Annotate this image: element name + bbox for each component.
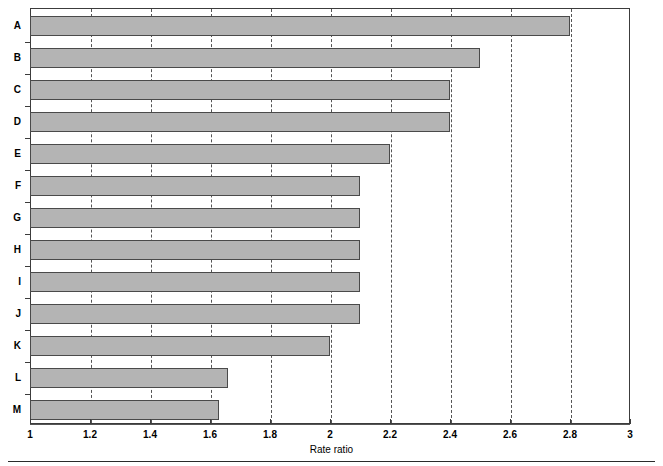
x-tick-label-2: 2 [310, 429, 350, 440]
bar-A [30, 16, 570, 36]
x-tick-label-1.6: 1.6 [190, 429, 230, 440]
bar-D [30, 112, 450, 132]
x-tick-label-2.6: 2.6 [490, 429, 530, 440]
y-tick-label-G: G [1, 213, 21, 223]
x-tick-label-1.4: 1.4 [130, 429, 170, 440]
x-tick-2.6 [510, 419, 511, 424]
bar-I [30, 272, 360, 292]
y-tick-label-M: M [1, 405, 21, 415]
x-tick-1.2 [90, 419, 91, 424]
bar-F [30, 176, 360, 196]
y-tick-G [25, 202, 30, 203]
footer-divider [8, 461, 655, 462]
bar-G [30, 208, 360, 228]
y-tick-label-H: H [1, 245, 21, 255]
bar-H [30, 240, 360, 260]
bar-L [30, 368, 228, 388]
x-tick-label-3: 3 [610, 429, 650, 440]
y-tick-K [25, 330, 30, 331]
y-tick-label-B: B [1, 53, 21, 63]
bar-B [30, 48, 480, 68]
x-tick-label-2.2: 2.2 [370, 429, 410, 440]
x-tick-1.6 [210, 419, 211, 424]
x-tick-1.4 [150, 419, 151, 424]
y-tick-D [25, 106, 30, 107]
y-tick-L [25, 362, 30, 363]
y-tick-label-I: I [1, 277, 21, 287]
x-tick-2.2 [390, 419, 391, 424]
x-axis-title: Rate ratio [0, 444, 663, 455]
bar-C [30, 80, 450, 100]
y-tick-label-K: K [1, 341, 21, 351]
y-tick-label-A: A [1, 21, 21, 31]
x-axis-line [30, 424, 630, 425]
bar-M [30, 400, 219, 420]
y-tick-label-F: F [1, 181, 21, 191]
y-tick-label-J: J [1, 309, 21, 319]
x-tick-label-2.8: 2.8 [550, 429, 590, 440]
y-tick-label-L: L [1, 373, 21, 383]
y-tick-label-D: D [1, 117, 21, 127]
bar-K [30, 336, 330, 356]
x-tick-1 [30, 419, 31, 424]
y-tick-label-C: C [1, 85, 21, 95]
y-tick-B [25, 42, 30, 43]
bars-group [30, 8, 630, 424]
y-axis: ABCDEFGHIJKLM [0, 8, 30, 424]
x-tick-label-1.8: 1.8 [250, 429, 290, 440]
y-tick-label-E: E [1, 149, 21, 159]
x-tick-2.8 [570, 419, 571, 424]
y-tick-C [25, 74, 30, 75]
x-tick-3 [630, 419, 631, 424]
x-tick-2.4 [450, 419, 451, 424]
y-tick-H [25, 234, 30, 235]
y-tick-J [25, 298, 30, 299]
y-tick-F [25, 170, 30, 171]
x-tick-label-2.4: 2.4 [430, 429, 470, 440]
bar-E [30, 144, 390, 164]
bar-chart-figure: ABCDEFGHIJKLM 11.21.41.61.822.22.42.62.8… [0, 0, 663, 466]
x-tick-2 [330, 419, 331, 424]
y-tick-I [25, 266, 30, 267]
bar-J [30, 304, 360, 324]
x-tick-label-1.2: 1.2 [70, 429, 110, 440]
y-tick-E [25, 138, 30, 139]
x-tick-label-1: 1 [10, 429, 50, 440]
x-tick-1.8 [270, 419, 271, 424]
y-tick-M [25, 394, 30, 395]
